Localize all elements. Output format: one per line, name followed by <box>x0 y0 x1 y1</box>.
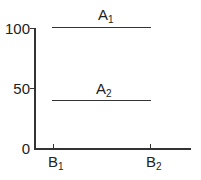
series-label-a1: A1 <box>98 7 114 27</box>
x-tick-b2 <box>150 144 151 149</box>
series-line-a1 <box>52 27 151 28</box>
y-tick-label-100: 100 <box>0 21 30 36</box>
x-tick-label-b2: B2 <box>146 154 162 174</box>
series-label-a2: A2 <box>96 81 112 101</box>
y-tick-label-0: 0 <box>0 141 30 156</box>
x-tick-label-b1: B1 <box>48 154 64 174</box>
y-tick-100 <box>30 28 35 29</box>
x-tick-b1 <box>53 144 54 149</box>
y-tick-50 <box>30 88 35 89</box>
x-axis <box>34 148 191 150</box>
y-tick-label-50: 50 <box>0 81 30 96</box>
